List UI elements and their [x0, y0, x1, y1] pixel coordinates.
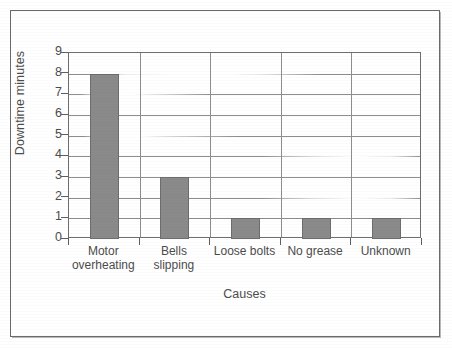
x-axis-tick-mark — [209, 238, 210, 245]
bar-chart: Downtime minutes 9876543210 Motor overhe… — [0, 0, 452, 348]
bar — [302, 218, 331, 239]
x-axis-category-label: Motor overheating — [68, 245, 139, 272]
gridline-7 — [69, 94, 420, 95]
y-axis-tick-label: 7 — [46, 86, 62, 99]
y-axis-tick-labels: 9876543210 — [40, 0, 62, 348]
bar — [90, 74, 119, 239]
x-axis-tick-mark — [350, 238, 351, 245]
y-axis-tick-mark — [61, 72, 68, 73]
category-separator-2 — [210, 53, 211, 237]
category-separator-3 — [281, 53, 282, 237]
x-axis-category-label: Loose bolts — [209, 245, 280, 259]
gridline-3 — [69, 177, 420, 178]
y-axis-tick-label: 8 — [46, 66, 62, 79]
plot-area — [68, 52, 421, 238]
x-axis-tick-mark — [139, 238, 140, 245]
gridline-6 — [69, 115, 420, 116]
bar — [160, 177, 189, 239]
x-axis-tick-mark — [421, 238, 422, 245]
y-axis-tick-mark — [61, 155, 68, 156]
y-axis-tick-label: 3 — [46, 169, 62, 182]
category-separator-4 — [351, 53, 352, 237]
y-axis-tick-mark — [61, 217, 68, 218]
y-axis-tick-label: 9 — [46, 45, 62, 58]
category-separator-1 — [140, 53, 141, 237]
gridline-4 — [69, 156, 420, 157]
x-axis-tick-mark — [68, 238, 69, 245]
y-axis-tick-label: 2 — [46, 190, 62, 203]
y-axis-tick-mark — [61, 52, 68, 53]
gridline-5 — [69, 136, 420, 137]
x-axis-category-label: Bells slipping — [139, 245, 210, 272]
x-axis-title: Causes — [68, 287, 421, 301]
x-axis-category-label: No grease — [280, 245, 351, 259]
x-axis-tick-mark — [280, 238, 281, 245]
gridline-2 — [69, 198, 420, 199]
y-axis-tick-mark — [61, 134, 68, 135]
y-axis-tick-label: 4 — [46, 148, 62, 161]
bar — [231, 218, 260, 239]
y-axis-tick-mark — [61, 176, 68, 177]
gridline-8 — [69, 74, 420, 75]
y-axis-tick-label: 5 — [46, 128, 62, 141]
y-axis-tick-mark — [61, 114, 68, 115]
y-axis-title: Downtime minutes — [13, 43, 27, 163]
y-axis-tick-label: 0 — [46, 231, 62, 244]
chart-page: Downtime minutes 9876543210 Motor overhe… — [0, 0, 452, 348]
bar — [372, 218, 401, 239]
x-axis-category-label: Unknown — [350, 245, 421, 259]
y-axis-tick-label: 1 — [46, 210, 62, 223]
y-axis-tick-mark — [61, 93, 68, 94]
y-axis-tick-mark — [61, 196, 68, 197]
y-axis-tick-mark — [61, 238, 68, 239]
y-axis-tick-label: 6 — [46, 107, 62, 120]
